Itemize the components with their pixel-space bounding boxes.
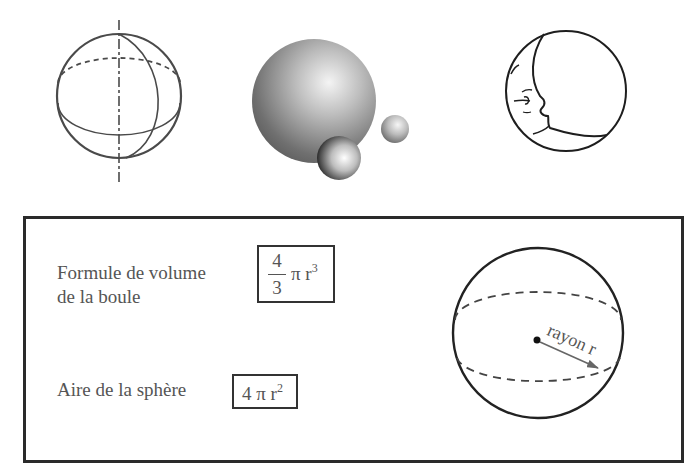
area-label: Aire de la sphère [57,378,186,402]
fraction-bar [268,274,286,275]
exponent-3: 3 [312,261,318,275]
volume-label-line1: Formule de volume [57,262,206,283]
exponent-2: 2 [277,381,283,395]
moon-face-icon [506,31,626,151]
fraction-denominator: 3 [268,277,286,299]
area-formula-box: 4 π r2 [232,374,298,409]
volume-pi-r: π r3 [291,261,318,285]
area-expression-text: 4 π r [242,383,277,404]
area-expression: 4 π r2 [242,381,283,405]
fraction-numerator: 4 [268,250,286,272]
shaded-spheres-icon [252,39,409,180]
volume-formula-box: 4 3 π r3 [257,245,335,303]
volume-label: Formule de volume de la boule [57,261,206,309]
fraction-four-thirds: 4 3 [268,250,286,299]
wireframe-sphere-icon [57,20,181,183]
volume-label-line2: de la boule [57,286,140,307]
pi-r-text: π r [291,263,312,284]
